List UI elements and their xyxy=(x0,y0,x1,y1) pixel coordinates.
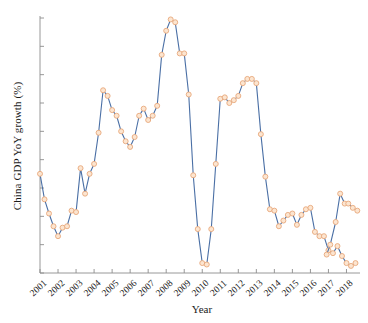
plot-area xyxy=(0,0,368,323)
chart-figure: China GDP YoY growth (%) Year 6810121416… xyxy=(0,0,368,323)
